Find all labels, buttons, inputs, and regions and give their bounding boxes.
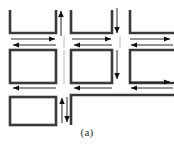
diagram-background — [0, 0, 174, 128]
figure-container: (a) — [0, 0, 174, 152]
figure-caption: (a) — [0, 126, 174, 138]
network-diagram — [0, 0, 174, 128]
